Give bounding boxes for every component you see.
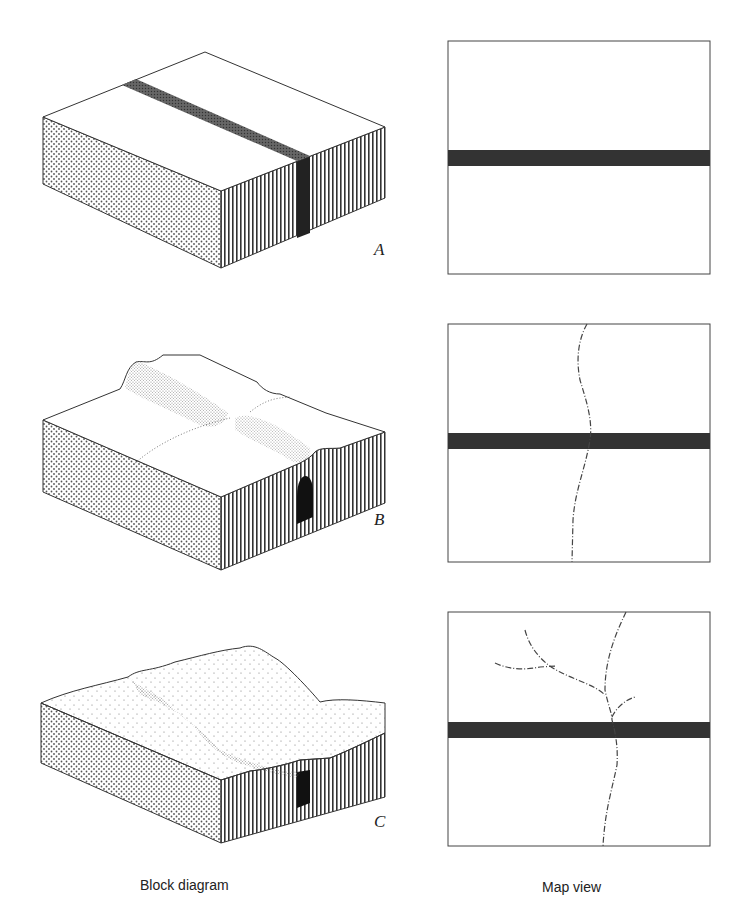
block-diagram-a — [43, 52, 385, 268]
caption-map-view: Map view — [542, 879, 601, 895]
block-diagram-figure — [0, 0, 741, 921]
block-diagram-b — [43, 355, 385, 570]
map-view-b — [448, 324, 710, 562]
map-view-c — [448, 612, 710, 846]
caption-block-diagram: Block diagram — [140, 877, 229, 893]
map-view-a — [448, 41, 710, 274]
panel-label-a: A — [374, 240, 384, 260]
block-diagram-c — [41, 646, 385, 843]
panel-label-c: C — [374, 812, 385, 832]
panel-label-b: B — [374, 510, 384, 530]
